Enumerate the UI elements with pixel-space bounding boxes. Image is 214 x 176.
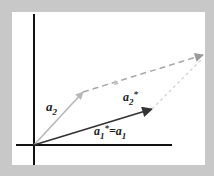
mid-arrow-icon bbox=[114, 80, 119, 85]
vector-dashed bbox=[83, 55, 203, 92]
vector-diagram: a2 a2* a1*=a1 bbox=[0, 0, 214, 176]
label-a1-equals: a1*=a1 bbox=[94, 123, 126, 141]
label-a2-star: a2* bbox=[123, 89, 139, 107]
label-a2: a2 bbox=[46, 99, 58, 117]
vector-a2-star bbox=[152, 58, 203, 109]
